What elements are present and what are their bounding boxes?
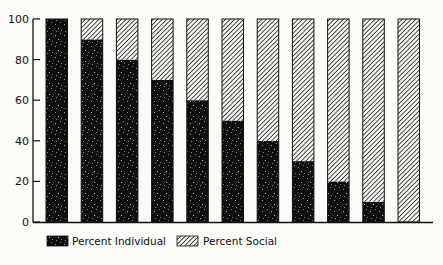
bar-6 [222, 19, 244, 222]
legend-label-social: Percent Social [203, 235, 277, 247]
bar-5 [187, 19, 209, 222]
bar-segment-individual [257, 141, 279, 222]
bar-7 [257, 19, 279, 222]
bar-segment-individual [222, 121, 244, 223]
bar-1 [46, 19, 68, 222]
bar-segment-social [292, 19, 314, 161]
bar-9 [328, 19, 350, 222]
legend-swatch-individual [47, 236, 68, 246]
y-tick-label: 40 [15, 135, 29, 148]
bar-segment-social [222, 19, 244, 121]
bar-segment-individual [46, 19, 68, 222]
bar-segment-social [152, 19, 174, 80]
legend: Percent Individual Percent Social [47, 235, 277, 247]
y-tick-label: 60 [15, 94, 29, 107]
bar-segment-individual [363, 202, 385, 222]
y-tick-label: 100 [8, 13, 29, 26]
bar-11 [398, 19, 420, 222]
bars-group [46, 19, 420, 222]
bar-segment-social [257, 19, 279, 141]
bar-3 [116, 19, 137, 222]
bar-2 [81, 19, 103, 222]
legend-label-individual: Percent Individual [72, 235, 166, 247]
bar-segment-individual [292, 161, 314, 222]
bar-segment-individual [81, 39, 103, 222]
bar-segment-individual [328, 181, 350, 222]
y-tick-label: 0 [22, 216, 29, 229]
legend-swatch-social [177, 236, 198, 246]
y-tick-label: 20 [15, 175, 29, 188]
stacked-bar-chart: 020406080100 Percent Individual Percent … [0, 0, 443, 265]
bar-segment-individual [116, 60, 137, 222]
bar-segment-social [363, 19, 385, 202]
bar-4 [152, 19, 174, 222]
bar-segment-social [328, 19, 350, 181]
y-tick-label: 80 [15, 54, 29, 67]
bar-10 [363, 19, 385, 222]
bar-8 [292, 19, 314, 222]
bar-segment-individual [187, 100, 209, 222]
bar-segment-social [116, 19, 137, 60]
bar-segment-social [81, 19, 103, 39]
bar-segment-social [187, 19, 209, 100]
y-axis: 020406080100 [8, 13, 40, 229]
bar-segment-social [398, 19, 420, 222]
bar-segment-individual [152, 80, 174, 222]
